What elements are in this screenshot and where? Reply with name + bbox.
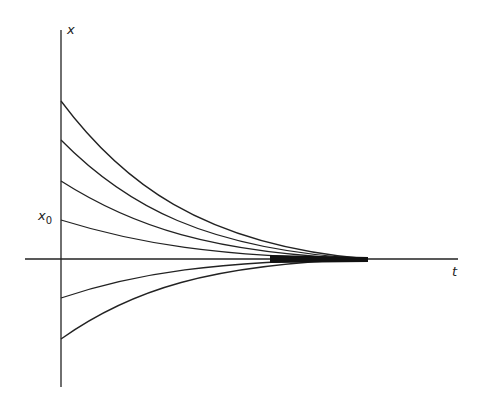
phase-diagram	[0, 0, 485, 403]
curve-3	[61, 181, 368, 259]
t-axis-label: t	[452, 264, 457, 279]
x0-base: x	[38, 208, 46, 223]
decay-curves	[61, 101, 368, 339]
x0-subscript: 0	[46, 215, 52, 226]
x0-label: x0	[38, 208, 52, 226]
curve-2	[61, 140, 368, 259]
curve-neg-2	[61, 259, 368, 339]
curve-neg-1	[61, 259, 368, 298]
convergence-band	[270, 255, 368, 263]
y-axis-label: x	[67, 22, 75, 37]
